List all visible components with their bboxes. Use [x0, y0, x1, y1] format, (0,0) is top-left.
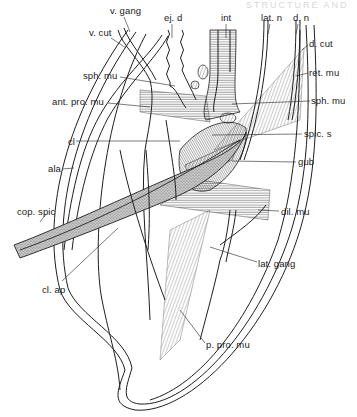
label-cl: cl	[68, 137, 75, 147]
label-ant-pro-mu: ant. pro. mu	[52, 97, 104, 107]
label-d-cut: d. cut	[309, 39, 333, 49]
label-spic-s: spic. s	[304, 129, 332, 139]
label-cop-spic: cop. spic	[17, 207, 55, 217]
label-ej-d: ej. d	[164, 13, 182, 23]
label-lat-n: lat. n	[261, 13, 282, 23]
label-p-pro-mu: p. pro. mu	[206, 340, 250, 350]
label-v-cut: v. cut	[89, 28, 112, 38]
label-ala: ala	[48, 164, 61, 174]
label-int: int	[221, 13, 231, 23]
label-sph-mu-left: sph. mu	[83, 71, 118, 81]
label-v-gang: v. gang	[110, 6, 141, 16]
label-dil-mu: dil. mu	[281, 207, 310, 217]
label-ret-mu: ret. mu	[309, 68, 339, 78]
label-lat-gang: lat. gang	[258, 259, 295, 269]
lateral-ganglion	[200, 205, 266, 340]
label-d-n: d. n	[293, 13, 309, 23]
label-gub: gub	[298, 157, 314, 167]
label-cl-ap: cl. ap	[42, 285, 65, 295]
label-sph-mu-right: sph. mu	[311, 96, 346, 106]
